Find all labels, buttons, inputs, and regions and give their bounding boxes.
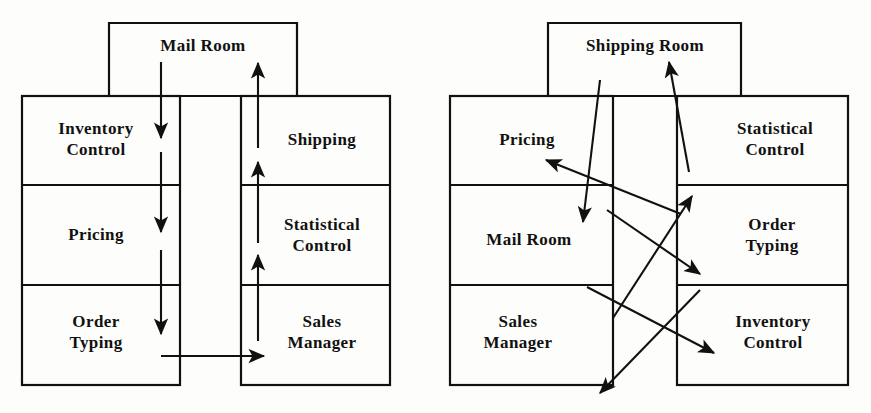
right-flow-arrow-to-inventory-control (587, 287, 714, 353)
right-flow-arrow-to-sales-manager (600, 290, 700, 393)
left-cell-3-line1: Order (72, 312, 119, 331)
right-flow-arrow-shipping-to-mailroom (583, 80, 600, 222)
right-top-room: Shipping Room (548, 23, 741, 96)
right-diagram-right-cell-order-typing: Order Typing (745, 215, 798, 255)
right-diagram-left-cell-pricing: Pricing (499, 130, 555, 149)
left-diagram-right-cell-statistical-control: Statistical Control (284, 215, 360, 255)
right-right-cell-1-line1: Statistical (737, 119, 813, 138)
right-left-cell-3-line2: Manager (484, 333, 553, 352)
office-layout-diagram-pair: Mail Room Inventory Control Pricing Orde… (0, 0, 871, 413)
right-diagram-right-cell-statistical-control: Statistical Control (737, 119, 813, 159)
right-top-room-label: Shipping Room (586, 36, 704, 55)
left-top-room-outline (109, 23, 297, 96)
left-right-cell-2-line1: Statistical (284, 215, 360, 234)
right-right-cell-2-line2: Typing (745, 236, 798, 255)
right-left-cell-1-line1: Pricing (499, 130, 555, 149)
left-right-cell-2-line2: Control (292, 236, 351, 255)
left-cell-3-line2: Typing (69, 333, 122, 352)
right-left-cell-2-line1: Mail Room (486, 230, 571, 249)
left-diagram-right-cell-shipping: Shipping (288, 130, 357, 149)
right-flow-arrow-up-to-shipping (669, 62, 689, 172)
right-flow-arrow-to-order-typing (607, 210, 700, 274)
right-left-cell-3-line1: Sales (499, 312, 538, 331)
right-diagram: Shipping Room Pricing Mail Room Sales Ma… (450, 23, 848, 393)
left-top-room-label: Mail Room (160, 36, 245, 55)
left-right-cell-3-line1: Sales (303, 312, 342, 331)
right-right-cell-3-line1: Inventory (735, 312, 810, 331)
right-diagram-left-cell-sales-manager: Sales Manager (484, 312, 553, 352)
left-column-cell-inventory-control: Inventory Control (58, 119, 133, 159)
left-column-cell-order-typing: Order Typing (69, 312, 122, 352)
left-cell-2-line1: Pricing (68, 225, 124, 244)
right-diagram-left-cell-mail-room: Mail Room (486, 230, 571, 249)
left-diagram: Mail Room Inventory Control Pricing Orde… (22, 23, 390, 385)
right-right-cell-1-line2: Control (745, 140, 804, 159)
left-column-cell-pricing: Pricing (68, 225, 124, 244)
figure-root: Mail Room Inventory Control Pricing Orde… (0, 0, 871, 413)
left-top-room: Mail Room (109, 23, 297, 96)
left-cell-1-line1: Inventory (58, 119, 133, 138)
left-right-cell-1-line1: Shipping (288, 130, 357, 149)
right-diagonal-flow-arrows (546, 62, 714, 393)
right-diagram-right-cell-inventory-control: Inventory Control (735, 312, 810, 352)
right-right-cell-3-line2: Control (743, 333, 802, 352)
left-cell-1-line2: Control (66, 140, 125, 159)
right-right-cell-2-line1: Order (748, 215, 795, 234)
right-top-room-outline (548, 23, 741, 96)
left-right-cell-3-line2: Manager (288, 333, 357, 352)
left-diagram-right-cell-sales-manager: Sales Manager (288, 312, 357, 352)
right-flow-arrow-to-statistical-control (613, 196, 692, 318)
